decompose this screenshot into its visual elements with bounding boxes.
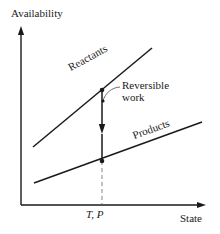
x-axis-tick-label-tp: T, P: [86, 209, 104, 221]
reversible-work-line2: work: [122, 92, 169, 104]
x-axis-label: State: [180, 213, 202, 225]
reversible-work-leader-dot: [101, 99, 104, 102]
reactants-intersection-dot: [100, 88, 105, 93]
x-axis-arrowhead: [197, 202, 206, 208]
y-axis-arrowhead: [18, 26, 24, 35]
reversible-work-line1: Reversible: [122, 79, 169, 91]
products-intersection-dot: [100, 159, 105, 164]
reversible-work-annotation: Reversible work: [122, 80, 169, 103]
availability-vs-state-diagram: Availability State T, P Reactants Produc…: [0, 0, 220, 234]
reversible-work-arrowhead: [99, 124, 105, 134]
y-axis-label: Availability: [11, 8, 63, 20]
products-line: [34, 122, 202, 183]
diagram-canvas: [0, 0, 220, 234]
reversible-work-leader-line: [103, 87, 120, 101]
